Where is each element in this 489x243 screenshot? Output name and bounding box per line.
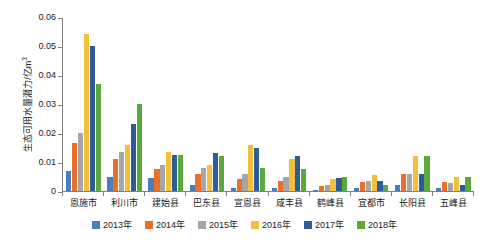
bar	[254, 148, 259, 192]
bar	[242, 174, 247, 191]
y-axis-title-text: 生态可用水量潜力/亿m	[23, 61, 33, 152]
y-axis-tick-label: 0.04	[38, 70, 56, 80]
x-axis-label: 恩施市	[63, 196, 104, 209]
y-axis-tick-mark	[58, 105, 62, 106]
bar	[213, 153, 218, 191]
legend-swatch-icon	[251, 221, 259, 229]
y-axis-tick-label: 0.03	[38, 99, 56, 109]
bar	[436, 188, 441, 191]
bar	[448, 183, 453, 191]
bar	[272, 188, 277, 191]
bar	[330, 179, 335, 191]
bar	[96, 84, 101, 191]
bar	[301, 169, 306, 191]
bar	[366, 181, 371, 191]
x-axis-label: 五峰县	[433, 196, 474, 209]
bar	[231, 188, 236, 191]
bar	[283, 177, 288, 192]
bar	[66, 171, 71, 191]
bar	[336, 178, 341, 191]
bar	[372, 175, 377, 191]
legend-label: 2013年	[103, 218, 132, 231]
bar	[460, 185, 465, 191]
bar-group	[63, 18, 104, 191]
bar	[248, 145, 253, 191]
bar	[325, 185, 330, 191]
legend-item[interactable]: 2018年	[357, 218, 397, 231]
x-axis-label: 利川市	[104, 196, 145, 209]
bar	[237, 179, 242, 191]
x-axis-label: 建始县	[145, 196, 186, 209]
bar	[295, 156, 300, 191]
legend-label: 2014年	[156, 218, 185, 231]
x-axis-label: 巴东县	[186, 196, 227, 209]
y-axis-tick-mark	[58, 18, 62, 19]
y-axis-tick-label: 0.05	[38, 41, 56, 51]
x-axis-labels: 恩施市利川市建始县巴东县宣恩县咸丰县鹤峰县宜都市长阳县五峰县	[63, 196, 474, 209]
bar	[78, 133, 83, 191]
bar-group	[186, 18, 227, 191]
y-axis-title: 生态可用水量潜力/亿m3	[21, 20, 34, 190]
bar-group	[351, 18, 392, 191]
y-axis-tick-mark	[58, 163, 62, 164]
x-axis-label: 咸丰县	[268, 196, 309, 209]
legend-swatch-icon	[92, 221, 100, 229]
y-axis-title-exponent: 3	[21, 57, 28, 61]
bar	[454, 177, 459, 192]
bar-group	[268, 18, 309, 191]
bar	[160, 165, 165, 191]
bar	[137, 104, 142, 191]
legend-item[interactable]: 2013年	[92, 218, 132, 231]
bar	[84, 34, 89, 191]
legend-item[interactable]: 2017年	[304, 218, 344, 231]
bar	[413, 156, 418, 191]
plot-area: 00.010.020.030.040.050.06	[62, 18, 474, 192]
bar	[125, 145, 130, 191]
bar	[289, 159, 294, 191]
bar-group	[433, 18, 474, 191]
bar	[172, 155, 177, 191]
bar-group	[104, 18, 145, 191]
chart-legend: 2013年2014年2015年2016年2017年2018年	[0, 218, 489, 231]
bar	[465, 177, 470, 192]
bar	[219, 156, 224, 191]
bar-group	[227, 18, 268, 191]
bar	[407, 174, 412, 191]
legend-label: 2016年	[262, 218, 291, 231]
bar	[278, 181, 283, 191]
x-axis-label: 宜都市	[351, 196, 392, 209]
legend-swatch-icon	[145, 221, 153, 229]
bar	[424, 156, 429, 191]
legend-item[interactable]: 2014年	[145, 218, 185, 231]
bar	[401, 174, 406, 191]
y-axis-tick-label: 0.06	[38, 12, 56, 22]
x-axis-label: 长阳县	[392, 196, 433, 209]
bar	[360, 182, 365, 191]
bar	[107, 177, 112, 192]
bar-group	[310, 18, 351, 191]
y-axis-tick-label: 0.02	[38, 128, 56, 138]
bar-groups	[63, 18, 474, 191]
legend-item[interactable]: 2016年	[251, 218, 291, 231]
legend-item[interactable]: 2015年	[198, 218, 238, 231]
bar	[72, 143, 77, 191]
bar	[313, 190, 318, 191]
bar	[131, 124, 136, 191]
bar	[154, 169, 159, 191]
y-axis-tick-label: 0	[51, 186, 56, 196]
legend-label: 2018年	[368, 218, 397, 231]
bar	[201, 168, 206, 191]
legend-swatch-icon	[198, 221, 206, 229]
bar	[119, 152, 124, 191]
bar-group	[392, 18, 433, 191]
bar	[113, 159, 118, 191]
bar	[190, 185, 195, 191]
bar	[148, 178, 153, 191]
bar	[377, 181, 382, 191]
x-axis-label: 鹤峰县	[310, 196, 351, 209]
bar-group	[145, 18, 186, 191]
y-axis-tick-mark	[58, 134, 62, 135]
bar	[419, 174, 424, 191]
legend-label: 2017年	[315, 218, 344, 231]
bar	[383, 185, 388, 191]
